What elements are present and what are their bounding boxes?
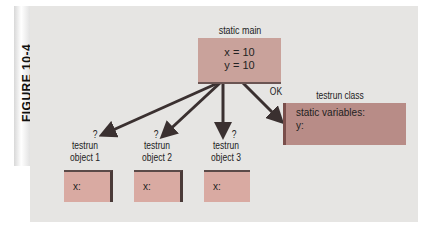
static-main-line-y: y = 10 (198, 59, 281, 72)
object-3-field: x: (213, 181, 221, 192)
object-3-title-line1: testrun (205, 140, 248, 151)
static-main-box: x = 10 y = 10 (198, 38, 281, 84)
testrun-class-title: testrun class (306, 90, 374, 101)
class-static-variables-label: static variables: (286, 106, 406, 119)
object-2-field: x: (143, 181, 151, 192)
ok-label: OK (266, 86, 286, 97)
class-y-field: y: (286, 119, 406, 132)
object-1-title-line1: testrun (64, 140, 107, 151)
object-2-box: x: (134, 170, 183, 202)
static-main-title: static main (206, 25, 274, 36)
object-3-question: ? (229, 129, 239, 140)
object-1-title-line2: object 1 (64, 152, 107, 163)
object-2-question: ? (151, 129, 161, 140)
testrun-class-box: static variables: y: (283, 103, 406, 145)
object-2-title-line2: object 2 (136, 152, 179, 163)
object-1-field: x: (73, 181, 81, 192)
object-3-title-line2: object 3 (205, 152, 248, 163)
static-main-line-x: x = 10 (198, 46, 281, 59)
object-3-box: x: (204, 170, 250, 202)
object-1-question: ? (90, 129, 100, 140)
arrow-to-object-1 (104, 83, 218, 134)
object-2-title-line1: testrun (136, 140, 179, 151)
arrow-to-object-2 (164, 83, 220, 135)
object-1-box: x: (64, 170, 113, 202)
